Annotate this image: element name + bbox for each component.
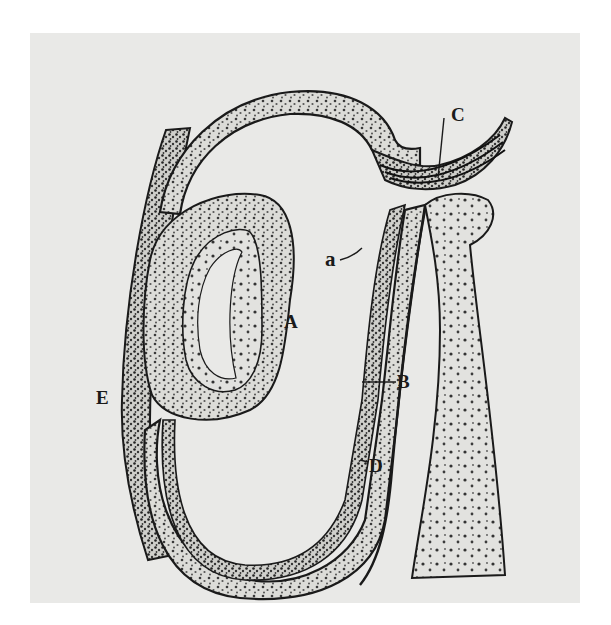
- label-b: B: [397, 372, 410, 391]
- label-a-lower: a: [325, 249, 336, 270]
- label-d: D: [369, 456, 383, 475]
- outer-loop: [160, 91, 420, 214]
- label-c: C: [451, 105, 465, 124]
- right-column: [412, 194, 505, 578]
- label-e: E: [96, 388, 109, 407]
- anatomical-drawing: [0, 0, 611, 625]
- leader-a: [340, 248, 362, 260]
- label-a-upper: A: [284, 312, 298, 331]
